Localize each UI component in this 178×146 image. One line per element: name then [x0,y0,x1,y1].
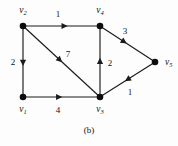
edge-weight-labels-layer: 1274231 [11,9,133,115]
arrowhead-v2-to-v1 [20,60,26,66]
edges-layer [23,26,153,97]
edge-weight-v4-v5: 3 [123,26,128,36]
vertex-v1 [20,94,27,101]
arrowheads-layer [20,23,132,100]
vertex-v2 [20,23,27,30]
edge-weight-v5-v3: 1 [128,87,133,97]
vertex-v5 [152,59,159,66]
vertex-label-v5: v5 [165,57,173,68]
edge-weight-v2-v3: 7 [66,49,71,59]
arrowhead-v2-to-v4 [61,23,67,29]
edge-v4-to-v5 [102,27,153,60]
vertex-v3 [97,94,104,101]
graph-canvas: 1274231 v1v2v3v4v5 (b) [0,0,178,146]
arrowhead-v1-to-v3 [56,94,62,100]
figure-container: 1274231 v1v2v3v4v5 (b) [0,0,178,146]
edge-weight-v3-v4: 2 [108,58,113,68]
vertex-labels-layer: v1v2v3v4v5 [19,5,173,115]
vertex-label-v1: v1 [19,104,26,115]
figure-caption: (b) [84,125,95,135]
arrowhead-v3-to-v4 [97,58,103,64]
edge-weight-v1-v3: 4 [56,105,61,115]
edge-weight-v2-v1: 2 [11,57,16,67]
vertex-label-v2: v2 [19,5,27,16]
vertex-v4 [97,23,104,30]
arrowhead-v4-to-v5 [120,38,127,44]
vertices-layer [20,23,159,101]
vertex-label-v4: v4 [96,5,104,16]
edge-weight-v2-v4: 1 [56,9,61,19]
vertex-label-v3: v3 [96,104,104,115]
arrowhead-v5-to-v3 [125,75,132,81]
